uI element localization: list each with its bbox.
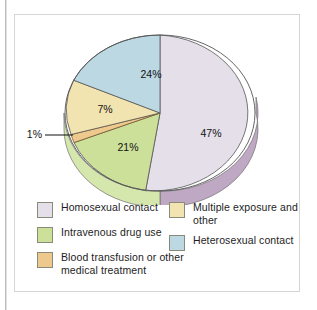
page-gutter-rule — [5, 0, 7, 310]
legend-label-multiple-exposure: Multiple exposure and other — [193, 201, 301, 226]
legend-item-heterosexual-contact[interactable]: Heterosexual contact — [169, 234, 301, 251]
figure-card: 24% 7% 1% 21% 47% Homosexual contact Int… — [14, 14, 300, 292]
legend-item-blood-transfusion[interactable]: Blood transfusion or other medical treat… — [37, 251, 187, 276]
legend-label-heterosexual-contact: Heterosexual contact — [193, 234, 294, 247]
pie-label-homosexual-contact: 47% — [200, 127, 221, 139]
legend-swatch-blood-transfusion — [37, 252, 53, 268]
pie-label-intravenous-drug-use: 21% — [117, 141, 138, 153]
legend-swatch-multiple-exposure — [169, 202, 185, 218]
legend-column-right: Multiple exposure and other Heterosexual… — [169, 201, 301, 259]
chart-legend: Homosexual contact Intravenous drug use … — [15, 201, 301, 293]
legend-label-intravenous-drug-use: Intravenous drug use — [61, 226, 162, 239]
figure-root: 24% 7% 1% 21% 47% Homosexual contact Int… — [0, 0, 317, 310]
legend-swatch-homosexual-contact — [37, 202, 53, 218]
legend-item-multiple-exposure[interactable]: Multiple exposure and other — [169, 201, 301, 226]
legend-item-intravenous-drug-use[interactable]: Intravenous drug use — [37, 226, 187, 243]
legend-item-homosexual-contact[interactable]: Homosexual contact — [37, 201, 187, 218]
legend-swatch-intravenous-drug-use — [37, 227, 53, 243]
pie-label-blood-transfusion: 1% — [27, 128, 42, 140]
legend-swatch-heterosexual-contact — [169, 235, 185, 251]
legend-label-homosexual-contact: Homosexual contact — [61, 201, 158, 214]
pie-label-multiple-exposure: 7% — [97, 103, 112, 115]
legend-column-left: Homosexual contact Intravenous drug use … — [37, 201, 187, 284]
pie-label-heterosexual-contact: 24% — [140, 68, 161, 80]
pie-chart: 24% 7% 1% 21% 47% — [15, 15, 301, 205]
